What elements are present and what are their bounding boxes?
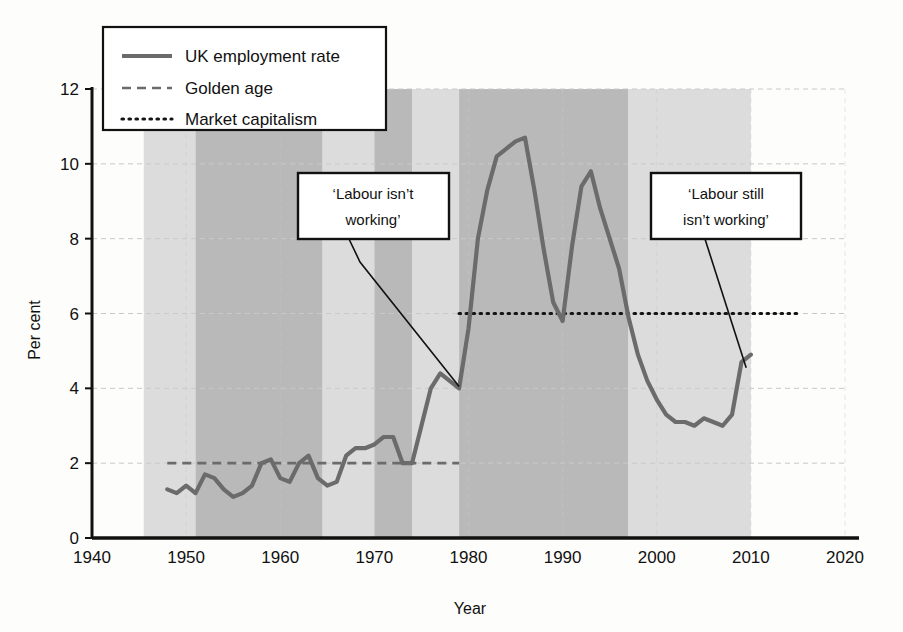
y-tick-label-4: 4 [70, 379, 79, 398]
legend-label-uk-employment-rate: UK employment rate [185, 47, 340, 66]
annotation-1-line-1: ‘Labour isn’t [333, 185, 415, 202]
y-tick-label-8: 8 [70, 230, 79, 249]
band-light-1945-1951 [144, 89, 196, 538]
x-tick-label-1970: 1970 [355, 548, 393, 567]
y-tick-label-12: 12 [60, 80, 79, 99]
legend-label-golden-age: Golden age [185, 79, 273, 98]
x-axis-label: Year [454, 600, 487, 617]
y-tick-label-10: 10 [60, 155, 79, 174]
y-axis-label: Per cent [26, 300, 43, 360]
y-tick-label-6: 6 [70, 305, 79, 324]
y-tick-label-2: 2 [70, 454, 79, 473]
x-tick-label-1960: 1960 [261, 548, 299, 567]
x-tick-label-1990: 1990 [544, 548, 582, 567]
x-tick-label-1950: 1950 [167, 548, 205, 567]
legend-label-market-capitalism: Market capitalism [185, 110, 317, 129]
annotation-2-line-2: isn’t working’ [683, 211, 769, 228]
x-tick-label-2020: 2020 [826, 548, 864, 567]
annotation-box-2 [651, 173, 801, 239]
annotation-labour-still-isnt-working: ‘Labour still isn’t working’ [651, 173, 801, 239]
x-axis-ticks: 194019501960197019801990200020102020 [73, 548, 864, 567]
annotation-2-line-1: ‘Labour still [688, 185, 764, 202]
legend: UK employment rate Golden age Market cap… [103, 27, 386, 130]
annotation-labour-isnt-working: ‘Labour isn’t working’ [298, 173, 449, 239]
chart-figure: 024681012 194019501960197019801990200020… [0, 0, 903, 632]
y-tick-label-0: 0 [70, 529, 79, 548]
annotation-1-line-2: working’ [344, 211, 400, 228]
x-tick-label-1980: 1980 [450, 548, 488, 567]
x-tick-label-1940: 1940 [73, 548, 111, 567]
employment-rate-chart: 024681012 194019501960197019801990200020… [0, 0, 903, 632]
x-tick-label-2000: 2000 [638, 548, 676, 567]
x-tick-label-2010: 2010 [732, 548, 770, 567]
annotation-box-1 [298, 173, 449, 239]
